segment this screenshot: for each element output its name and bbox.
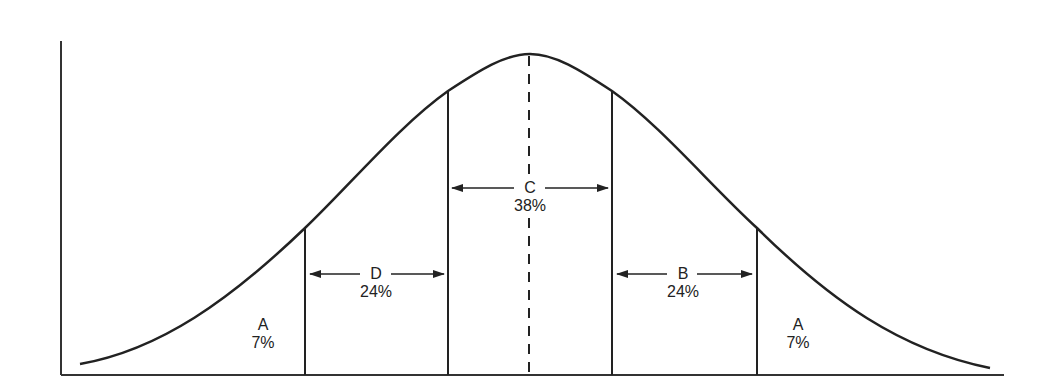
segment-letter: A [786, 316, 809, 334]
segment-percent: 38% [514, 197, 546, 215]
segment-percent: 7% [786, 334, 809, 352]
segment-percent: 24% [360, 283, 392, 301]
segment-letter: B [667, 265, 699, 283]
segment-label-d: D 24% [360, 265, 392, 301]
segment-letter: A [251, 316, 274, 334]
segment-label-left-a: A 7% [251, 316, 274, 352]
segment-letter: C [514, 179, 546, 197]
segment-percent: 7% [251, 334, 274, 352]
segment-label-c: C 38% [514, 179, 546, 215]
segment-label-right-a: A 7% [786, 316, 809, 352]
segment-letter: D [360, 265, 392, 283]
segment-label-b: B 24% [667, 265, 699, 301]
segment-percent: 24% [667, 283, 699, 301]
